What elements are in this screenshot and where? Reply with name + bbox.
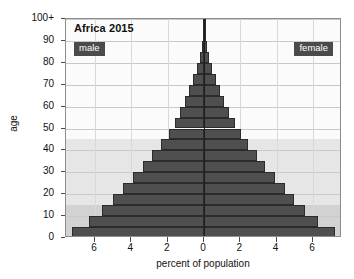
legend-badge-female: female: [294, 42, 333, 56]
bar-male-75-79: [197, 63, 204, 74]
y-tick-label-10: 10: [43, 210, 54, 220]
y-tick-label-0: 0: [48, 232, 54, 242]
bar-female-10-14: [204, 205, 305, 216]
bar-male-60-64: [185, 96, 204, 107]
x-tick-label-5: 4: [273, 243, 279, 253]
bar-female-30-34: [204, 161, 265, 172]
bar-male-0-4: [72, 227, 204, 237]
bar-male-35-39: [152, 150, 204, 161]
bar-female-15-19: [204, 194, 294, 205]
y-tick-label-20: 20: [43, 188, 54, 198]
y-axis-tick-labels: 0102030405060708090100+: [0, 18, 60, 237]
y-tick-label-40: 40: [43, 144, 54, 154]
bar-male-30-34: [143, 161, 204, 172]
bar-female-75-79: [204, 63, 212, 74]
bar-female-0-4: [204, 227, 335, 237]
y-tick-label-90: 90: [43, 35, 54, 45]
bar-female-25-29: [204, 172, 275, 183]
x-tick-label-1: 4: [128, 243, 134, 253]
x-tick-label-6: 6: [309, 243, 315, 253]
x-tick-label-2: 2: [164, 243, 170, 253]
bar-male-20-24: [123, 183, 204, 194]
bar-male-50-54: [175, 118, 204, 129]
bar-female-65-69: [204, 85, 220, 96]
bar-female-5-9: [204, 216, 318, 227]
bar-male-10-14: [102, 205, 204, 216]
bar-male-25-29: [133, 172, 204, 183]
y-tick-label-100+: 100+: [31, 13, 54, 23]
bar-female-20-24: [204, 183, 285, 194]
bar-female-40-44: [204, 139, 248, 150]
plot-area: Africa 2015 male female: [65, 18, 341, 237]
bar-female-50-54: [204, 118, 235, 129]
bar-female-70-74: [204, 74, 216, 85]
legend-badge-male: male: [74, 42, 105, 56]
y-tick-label-60: 60: [43, 101, 54, 111]
x-tick-label-0: 6: [91, 243, 97, 253]
y-tick-label-80: 80: [43, 57, 54, 67]
y-tick-label-70: 70: [43, 79, 54, 89]
y-tick-label-30: 30: [43, 166, 54, 176]
population-pyramid-figure: age 0102030405060708090100+ Africa 2015 …: [0, 0, 354, 279]
x-axis-title: percent of population: [65, 258, 341, 269]
bar-female-60-64: [204, 96, 224, 107]
bar-female-55-59: [204, 107, 229, 118]
x-tick-label-4: 2: [237, 243, 243, 253]
bar-female-35-39: [204, 150, 257, 161]
bar-male-15-19: [113, 194, 204, 205]
bar-male-45-49: [169, 129, 204, 140]
bar-female-45-49: [204, 129, 241, 140]
bar-male-5-9: [89, 216, 204, 227]
center-zero-axis: [204, 19, 205, 236]
bar-male-40-44: [161, 139, 204, 150]
chart-title: Africa 2015: [74, 22, 134, 34]
bar-male-55-59: [180, 107, 204, 118]
bar-male-70-74: [193, 74, 204, 85]
bar-male-65-69: [189, 85, 204, 96]
x-tick-label-3: 0: [200, 243, 206, 253]
y-tick-label-50: 50: [43, 123, 54, 133]
